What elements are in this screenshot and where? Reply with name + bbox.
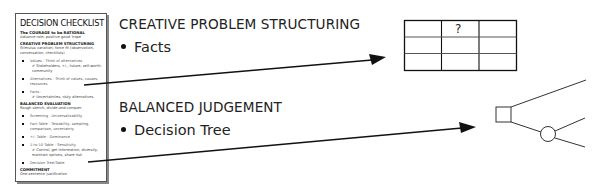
decision-node-square <box>496 107 511 122</box>
decision-tree-icon <box>496 80 586 147</box>
chance-node-circle <box>541 127 556 142</box>
fact-table-question-mark: ? <box>455 22 461 36</box>
diagram-canvas <box>0 0 601 194</box>
arrow-decision-tree-to-diagram <box>88 122 476 162</box>
arrow-facts-to-table <box>84 54 386 85</box>
